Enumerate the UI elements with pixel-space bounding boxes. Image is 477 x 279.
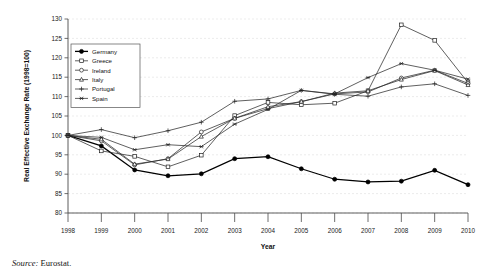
legend-label-ireland: Ireland — [92, 67, 111, 74]
source-note: Source: Eurostat. — [12, 258, 71, 268]
data-point-filled-circle — [133, 168, 137, 172]
data-point-open-circle — [80, 68, 84, 72]
x-tick-label: 2010 — [461, 227, 476, 234]
data-point-plus — [166, 128, 171, 133]
x-tick-label: 2004 — [261, 227, 276, 234]
y-tick-label: 85 — [55, 190, 63, 197]
data-point-filled-circle — [366, 180, 370, 184]
data-point-filled-circle — [399, 179, 403, 183]
y-tick-label: 120 — [51, 54, 62, 61]
data-point-plus — [399, 85, 404, 90]
data-point-plus — [132, 135, 137, 140]
data-point-asterisk — [466, 77, 471, 80]
source-label: Source: — [12, 258, 38, 268]
y-tick-label: 115 — [52, 73, 63, 80]
data-point-open-square — [200, 153, 204, 157]
y-axis-ticks: 80859095100105110115120125130 — [51, 15, 68, 216]
x-tick-label: 2002 — [194, 227, 209, 234]
x-tick-label: 2000 — [128, 227, 143, 234]
series-germany — [66, 133, 470, 186]
legend-label-italy: Italy — [92, 76, 104, 83]
data-point-asterisk — [166, 143, 171, 146]
legend-label-portugal: Portugal — [92, 85, 115, 92]
data-point-plus — [466, 93, 471, 98]
data-point-plus — [432, 81, 437, 86]
data-point-filled-circle — [199, 172, 203, 176]
x-tick-label: 2003 — [228, 227, 243, 234]
x-tick-label: 2007 — [361, 227, 376, 234]
data-point-plus — [99, 127, 104, 132]
data-point-filled-circle — [266, 155, 270, 159]
exchange-rate-line-chart: 80859095100105110115120125130 1998199920… — [0, 0, 477, 279]
data-point-filled-circle — [166, 174, 170, 178]
data-point-asterisk — [199, 145, 204, 148]
data-point-asterisk — [132, 148, 137, 151]
data-point-filled-circle — [466, 183, 470, 187]
y-tick-label: 130 — [51, 15, 62, 22]
y-tick-label: 95 — [55, 151, 63, 158]
data-point-filled-circle — [299, 167, 303, 171]
data-point-plus — [366, 94, 371, 99]
x-tick-label: 2005 — [294, 227, 309, 234]
source-value: Eurostat. — [41, 258, 72, 268]
figure-container: 80859095100105110115120125130 1998199920… — [0, 0, 477, 279]
data-point-open-square — [80, 59, 84, 63]
y-tick-label: 100 — [51, 132, 62, 139]
y-tick-label: 80 — [55, 209, 63, 216]
x-tick-label: 2009 — [428, 227, 443, 234]
y-axis-title: Real Effective Exchange Rate (1998=100) — [23, 50, 31, 182]
legend-label-greece: Greece — [92, 57, 113, 64]
data-point-filled-circle — [333, 177, 337, 181]
y-tick-label: 125 — [51, 35, 62, 42]
data-point-open-triangle — [199, 134, 203, 138]
data-point-filled-circle — [99, 144, 103, 148]
y-tick-label: 105 — [51, 112, 62, 119]
data-point-open-circle — [199, 130, 203, 134]
data-point-filled-circle — [433, 168, 437, 172]
data-point-asterisk — [232, 122, 237, 125]
data-point-open-square — [400, 23, 404, 27]
y-tick-label: 90 — [55, 170, 63, 177]
data-point-asterisk — [366, 76, 371, 79]
data-point-plus — [199, 120, 204, 125]
legend-label-germany: Germany — [92, 48, 118, 55]
data-point-filled-circle — [80, 49, 84, 53]
data-point-open-square — [433, 39, 437, 43]
data-point-open-square — [333, 101, 337, 105]
data-point-asterisk — [399, 62, 404, 65]
x-tick-label: 2006 — [328, 227, 343, 234]
data-point-open-square — [166, 165, 170, 169]
x-tick-label: 2008 — [394, 227, 409, 234]
data-point-open-square — [100, 149, 104, 153]
y-tick-label: 110 — [52, 93, 63, 100]
x-tick-label: 1998 — [61, 227, 76, 234]
x-axis-ticks: 1998199920002001200220032004200520062007… — [61, 213, 476, 234]
legend-label-spain: Spain — [92, 95, 108, 102]
x-tick-label: 1999 — [94, 227, 109, 234]
data-point-open-square — [133, 155, 137, 159]
chart-legend: GermanyGreeceIrelandItalyPortugalSpain — [71, 44, 140, 107]
x-tick-label: 2001 — [161, 227, 176, 234]
x-axis-title: Year — [261, 243, 276, 250]
data-point-plus — [232, 99, 237, 104]
data-point-filled-circle — [233, 157, 237, 161]
